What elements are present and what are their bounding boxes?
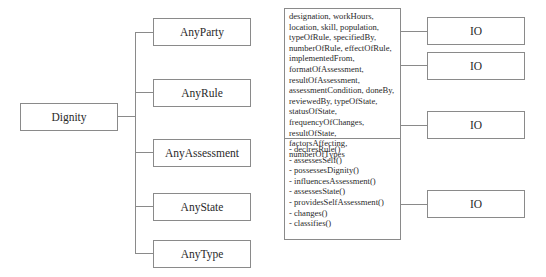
dignity-box: Dignity xyxy=(20,103,118,131)
anystate-label: AnyState xyxy=(181,201,224,213)
operation-item: - providesSelfAssessment() xyxy=(289,197,396,208)
anystate-box: AnyState xyxy=(153,193,251,221)
dignity-label: Dignity xyxy=(51,111,86,123)
left-trunk-line xyxy=(135,32,136,254)
operation-item: - classifies() xyxy=(289,218,396,229)
branch-io-2 xyxy=(401,65,427,66)
branch-anytype xyxy=(135,253,153,254)
io-label: IO xyxy=(470,119,482,131)
io-box-4: IO xyxy=(427,190,525,218)
io-label: IO xyxy=(470,60,482,72)
operation-item: - assessesState() xyxy=(289,186,396,197)
branch-anystate xyxy=(135,206,153,207)
operation-item: - possessesDignity() xyxy=(289,165,396,176)
anyparty-box: AnyParty xyxy=(153,18,251,46)
branch-anyrule xyxy=(135,92,153,93)
operation-item: - assessesSelf() xyxy=(289,155,396,166)
anyassessment-label: AnyAssessment xyxy=(165,147,239,159)
anyassessment-box: AnyAssessment xyxy=(153,139,251,167)
branch-io-3 xyxy=(401,125,427,126)
branch-anyassessment xyxy=(135,152,153,153)
class-box: designation, workHours, location, skill,… xyxy=(284,8,401,240)
class-divider xyxy=(285,138,400,139)
root-connector xyxy=(118,116,135,117)
operation-item: - changes() xyxy=(289,208,396,219)
branch-io-4 xyxy=(401,204,427,205)
anyparty-label: AnyParty xyxy=(180,26,224,38)
anyrule-label: AnyRule xyxy=(181,87,223,99)
operation-item: - declresRule() xyxy=(289,144,396,155)
io-box-3: IO xyxy=(427,111,525,139)
operation-item: - influencesAssessment() xyxy=(289,176,396,187)
attributes-section: designation, workHours, location, skill,… xyxy=(285,9,400,138)
io-box-2: IO xyxy=(427,52,525,80)
io-label: IO xyxy=(470,198,482,210)
io-label: IO xyxy=(470,25,482,37)
branch-io-1 xyxy=(401,31,427,32)
operations-section: - declresRule() - assessesSelf() - posse… xyxy=(285,142,400,231)
io-box-1: IO xyxy=(427,17,525,45)
branch-anyparty xyxy=(135,32,153,33)
anyrule-box: AnyRule xyxy=(153,79,251,107)
anytype-box: AnyType xyxy=(153,240,251,268)
anytype-label: AnyType xyxy=(181,248,224,260)
